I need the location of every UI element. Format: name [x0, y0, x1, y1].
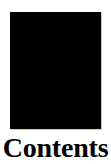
- cover-thumbnail[interactable]: [10, 12, 101, 129]
- page-title: Contents: [0, 132, 111, 164]
- page-root: Contents: [0, 0, 111, 164]
